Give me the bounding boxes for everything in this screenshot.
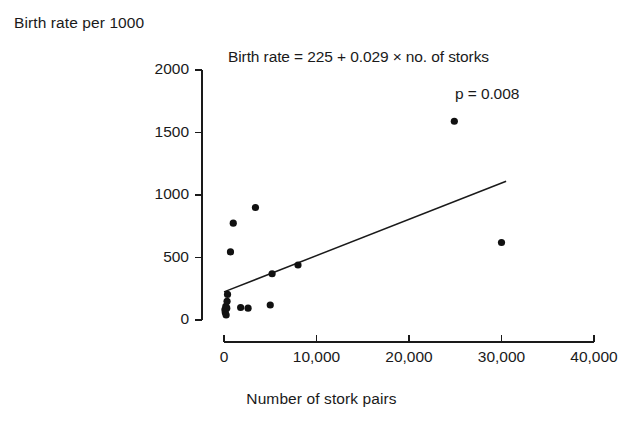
data-points [221,118,505,319]
data-point [244,305,251,312]
data-point [237,304,244,311]
data-point [252,204,259,211]
x-axis-title: Number of stork pairs [0,390,643,408]
data-point [223,305,230,312]
y-tick-label: 2000 [127,60,189,78]
data-point [451,118,458,125]
x-tick-label: 30,000 [457,348,547,366]
data-point [498,239,505,246]
data-point [223,311,230,318]
data-point [267,301,274,308]
data-point [294,261,301,268]
y-tick-label: 0 [127,310,189,328]
x-tick-label: 10,000 [272,348,362,366]
x-tick-label: 40,000 [549,348,639,366]
stork-birthrate-scatter-figure: Birth rate per 1000 Birth rate = 225 + 0… [0,0,643,433]
y-tick-label: 1000 [127,185,189,203]
regression-line [224,181,506,292]
y-tick-label: 1500 [127,123,189,141]
y-tick-label: 500 [127,248,189,266]
x-tick-label: 20,000 [364,348,454,366]
x-tick-label: 0 [179,348,269,366]
data-point [269,270,276,277]
data-point [227,248,234,255]
plot-canvas [0,0,643,433]
data-point [230,220,237,227]
data-point [223,298,230,305]
data-point [224,291,231,298]
